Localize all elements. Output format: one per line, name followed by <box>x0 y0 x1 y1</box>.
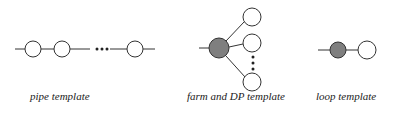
loop-template-label: loop template <box>316 90 376 102</box>
farm-worker-node-2 <box>243 34 261 52</box>
farm-ellipsis-dot <box>252 62 255 65</box>
pipe-node-2 <box>54 41 70 57</box>
pipe-template: pipe template <box>15 41 155 102</box>
templates-diagram: pipe template farm and DP template loop … <box>0 0 396 117</box>
pipe-node-n <box>127 41 143 57</box>
farm-template-label: farm and DP template <box>187 90 285 102</box>
farm-ellipsis-dot <box>252 68 255 71</box>
pipe-template-label: pipe template <box>29 90 90 102</box>
loop-template: loop template <box>316 41 376 102</box>
pipe-ellipsis-dot <box>101 48 104 51</box>
farm-branch-edge-n <box>226 56 245 77</box>
loop-control-node <box>330 42 346 58</box>
pipe-ellipsis-dot <box>106 48 109 51</box>
loop-body-node <box>358 41 376 59</box>
farm-ellipsis-dot <box>252 56 255 59</box>
farm-branch-edge-2 <box>229 44 243 47</box>
farm-worker-node-1 <box>243 8 261 26</box>
farm-emitter-node <box>209 38 229 58</box>
farm-branch-edge-1 <box>226 22 244 41</box>
farm-template: farm and DP template <box>187 8 285 102</box>
pipe-ellipsis-dot <box>96 48 99 51</box>
pipe-node-1 <box>25 41 41 57</box>
farm-worker-node-n <box>243 73 261 91</box>
